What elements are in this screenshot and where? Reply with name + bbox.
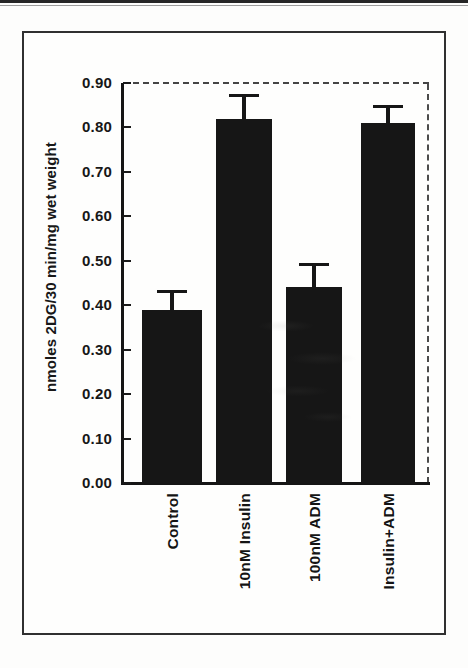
y-tick-label: 0.00 <box>64 474 112 492</box>
y-tick-label: 0.70 <box>64 163 112 181</box>
y-tick-label: 0.20 <box>64 385 112 403</box>
y-tick-label: 0.30 <box>64 341 112 359</box>
error-bar-line-1 <box>242 96 246 118</box>
y-axis-title: nmoles 2DG/30 min/mg wet weight <box>42 136 61 398</box>
y-tick-mark <box>123 304 131 306</box>
y-tick-mark <box>123 260 131 262</box>
error-bar-cap-0 <box>157 290 187 293</box>
bar-0 <box>142 310 202 483</box>
y-tick-mark <box>123 438 131 440</box>
y-tick-label: 0.40 <box>64 296 112 314</box>
y-tick-mark <box>123 393 131 395</box>
x-axis-label-control: Control <box>163 493 183 604</box>
error-bar-cap-2 <box>299 263 329 266</box>
x-axis-label-10nm-insulin: 10nM Insulin <box>235 493 255 604</box>
page-rule-line-thin <box>0 5 468 6</box>
error-bar-cap-1 <box>229 94 259 97</box>
y-tick-label: 0.50 <box>64 252 112 270</box>
error-bar-cap-3 <box>373 105 403 108</box>
y-tick-label: 0.80 <box>64 118 112 136</box>
x-axis-label-insulin-adm: Insulin+ADM <box>379 493 399 604</box>
y-tick-label: 0.10 <box>64 430 112 448</box>
scan-artifact <box>250 300 370 430</box>
y-tick-label: 0.60 <box>64 207 112 225</box>
y-tick-mark <box>123 482 131 484</box>
x-axis-label-100nm-adm: 100nM ADM <box>305 493 325 604</box>
error-bar-line-3 <box>386 107 390 123</box>
error-bar-line-2 <box>312 265 316 287</box>
y-tick-mark <box>123 126 131 128</box>
y-tick-label: 0.90 <box>64 74 112 92</box>
y-tick-mark <box>123 82 131 84</box>
page-rule-line <box>0 0 468 3</box>
y-tick-mark <box>123 215 131 217</box>
y-tick-mark <box>123 171 131 173</box>
y-tick-mark <box>123 349 131 351</box>
figure-canvas: nmoles 2DG/30 min/mg wet weight Control … <box>0 0 468 668</box>
error-bar-line-0 <box>170 292 174 310</box>
